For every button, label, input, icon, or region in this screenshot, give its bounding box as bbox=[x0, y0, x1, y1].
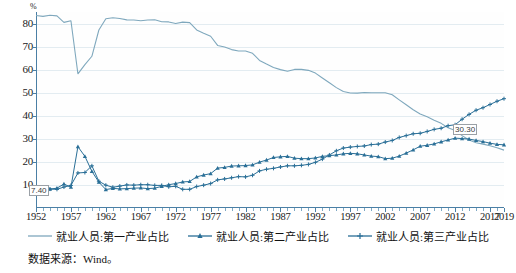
y-axis-tick-label: 40 bbox=[22, 109, 33, 121]
data-label: 7.40 bbox=[29, 185, 49, 196]
series-marker-plus bbox=[481, 106, 485, 110]
x-axis-tick-labels: 1952195719621967197219771982198719921997… bbox=[36, 211, 504, 227]
chart-legend: 就业人员:第一产业占比就业人员:第二产业占比就业人员:第三产业占比 bbox=[0, 228, 516, 244]
series-marker-plus bbox=[488, 102, 492, 106]
series-marker-plus bbox=[292, 164, 296, 168]
series-marker-plus bbox=[237, 175, 241, 179]
series-marker-plus bbox=[139, 183, 143, 187]
series-marker-plus bbox=[383, 140, 387, 144]
x-axis-tick-label: 1982 bbox=[235, 211, 255, 222]
series-marker-plus bbox=[181, 187, 185, 191]
series-marker-plus bbox=[369, 143, 373, 147]
series-marker-plus bbox=[230, 176, 234, 180]
series-marker-plus bbox=[195, 185, 199, 189]
legend-marker-plus bbox=[347, 231, 373, 241]
y-axis-tick-label: 50 bbox=[22, 86, 33, 98]
data-label: 30.30 bbox=[453, 124, 477, 135]
y-axis-tick-label: 30 bbox=[22, 132, 33, 144]
series-marker-plus bbox=[313, 160, 317, 164]
series-line-2 bbox=[36, 138, 504, 191]
x-axis-tick-label: 1962 bbox=[96, 211, 116, 222]
legend-item-1[interactable]: 就业人员:第一产业占比 bbox=[27, 228, 169, 244]
series-marker-plus bbox=[306, 162, 310, 166]
series-marker-plus bbox=[397, 135, 401, 139]
series-marker-plus bbox=[495, 99, 499, 103]
series-marker-plus bbox=[390, 138, 394, 142]
plot-area: 7.4030.30 bbox=[36, 12, 504, 208]
x-axis-tick-label: 1967 bbox=[131, 211, 151, 222]
series-marker-plus bbox=[278, 165, 282, 169]
series-marker-plus bbox=[265, 167, 269, 171]
series-marker-triangle bbox=[76, 144, 80, 148]
x-axis-tick-label: 1977 bbox=[201, 211, 221, 222]
y-axis-tick-label: 70 bbox=[22, 40, 33, 52]
series-marker-plus bbox=[209, 182, 213, 186]
series-marker-plus bbox=[62, 185, 66, 189]
series-marker-plus bbox=[341, 146, 345, 150]
series-marker-plus bbox=[76, 171, 80, 175]
x-axis-tick-label: 1952 bbox=[26, 211, 46, 222]
series-marker-plus bbox=[285, 164, 289, 168]
series-marker-plus bbox=[355, 144, 359, 148]
series-marker-plus bbox=[132, 183, 136, 187]
legend-marker-triangle bbox=[187, 231, 213, 241]
series-marker-plus bbox=[404, 134, 408, 138]
legend-label: 就业人员:第二产业占比 bbox=[216, 228, 329, 244]
legend-item-2[interactable]: 就业人员:第二产业占比 bbox=[187, 228, 329, 244]
series-marker-plus bbox=[348, 145, 352, 149]
series-marker-plus bbox=[362, 144, 366, 148]
series-marker-plus bbox=[376, 142, 380, 146]
x-axis-tick-label: 2012 bbox=[445, 211, 465, 222]
series-marker-plus bbox=[202, 183, 206, 187]
series-marker-plus bbox=[299, 163, 303, 167]
source-note: 数据来源：Wind。 bbox=[28, 250, 118, 266]
series-lines bbox=[36, 12, 504, 208]
series-marker-plus bbox=[216, 178, 220, 182]
series-marker-plus bbox=[125, 183, 129, 187]
series-marker-plus bbox=[271, 166, 275, 170]
series-marker-plus bbox=[244, 175, 248, 179]
x-axis-tick-label: 1987 bbox=[270, 211, 290, 222]
series-marker-plus bbox=[223, 177, 227, 181]
y-axis-tick-labels: 1020304050607080 bbox=[0, 12, 33, 208]
y-axis-unit-label: % bbox=[30, 2, 37, 11]
series-marker-plus bbox=[425, 129, 429, 133]
x-axis-tick-label: 1997 bbox=[340, 211, 360, 222]
legend-label: 就业人员:第一产业占比 bbox=[56, 228, 169, 244]
legend-label: 就业人员:第三产业占比 bbox=[376, 228, 489, 244]
legend-marker-line bbox=[27, 231, 53, 241]
chart-figure: % 1020304050607080 7.4030.30 19521957196… bbox=[0, 0, 516, 273]
x-axis-tick-label: 2002 bbox=[375, 211, 395, 222]
series-marker-plus bbox=[146, 183, 150, 187]
series-marker-plus bbox=[118, 184, 122, 188]
x-axis-tick-label: 1957 bbox=[61, 211, 81, 222]
y-axis-tick-label: 60 bbox=[22, 63, 33, 75]
y-axis-tick-label: 80 bbox=[22, 17, 33, 29]
series-marker-plus bbox=[411, 132, 415, 136]
legend-item-3[interactable]: 就业人员:第三产业占比 bbox=[347, 228, 489, 244]
y-axis-tick-label: 20 bbox=[22, 155, 33, 167]
x-axis-tick-label: 1972 bbox=[166, 211, 186, 222]
series-marker-plus bbox=[432, 127, 436, 131]
series-marker-plus bbox=[104, 183, 108, 187]
series-marker-plus bbox=[153, 183, 157, 187]
x-axis-tick-label: 2019 bbox=[494, 211, 514, 222]
series-marker-plus bbox=[439, 126, 443, 130]
series-marker-plus bbox=[418, 131, 422, 135]
series-marker-plus bbox=[502, 97, 506, 101]
x-axis-tick-label: 1992 bbox=[305, 211, 325, 222]
series-marker-plus bbox=[188, 187, 192, 191]
x-axis-tick-label: 2007 bbox=[410, 211, 430, 222]
